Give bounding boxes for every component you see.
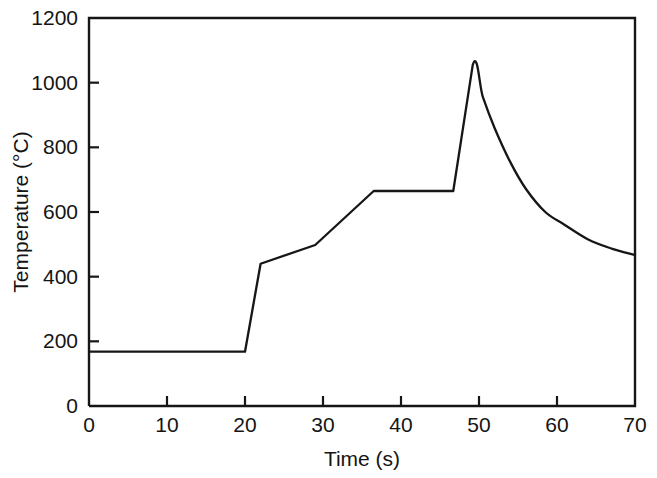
x-tick-label: 40 bbox=[389, 413, 412, 436]
x-axis-ticks bbox=[167, 396, 557, 406]
x-axis-title: Time (s) bbox=[324, 447, 400, 470]
x-tick-label: 0 bbox=[83, 413, 95, 436]
y-tick-label: 1000 bbox=[31, 71, 78, 94]
y-axis-title: Temperature (°C) bbox=[9, 131, 32, 292]
x-tick-label: 50 bbox=[467, 413, 490, 436]
y-axis-ticks bbox=[89, 83, 99, 342]
x-tick-label: 10 bbox=[155, 413, 178, 436]
x-axis-tick-labels: 010203040506070 bbox=[83, 413, 647, 436]
y-axis-tick-labels: 120010008006004002000 bbox=[31, 6, 78, 417]
x-tick-label: 60 bbox=[545, 413, 568, 436]
plot-frame bbox=[89, 18, 635, 406]
chart-container: 120010008006004002000 010203040506070 Ti… bbox=[0, 0, 657, 478]
y-tick-label: 0 bbox=[66, 394, 78, 417]
y-tick-label: 1200 bbox=[31, 6, 78, 29]
x-tick-label: 30 bbox=[311, 413, 334, 436]
y-tick-label: 400 bbox=[43, 265, 78, 288]
y-tick-label: 800 bbox=[43, 135, 78, 158]
y-tick-label: 600 bbox=[43, 200, 78, 223]
y-tick-label: 200 bbox=[43, 329, 78, 352]
x-tick-label: 20 bbox=[233, 413, 256, 436]
temperature-curve bbox=[89, 61, 635, 352]
chart-svg: 120010008006004002000 010203040506070 Ti… bbox=[0, 0, 657, 478]
x-tick-label: 70 bbox=[623, 413, 646, 436]
